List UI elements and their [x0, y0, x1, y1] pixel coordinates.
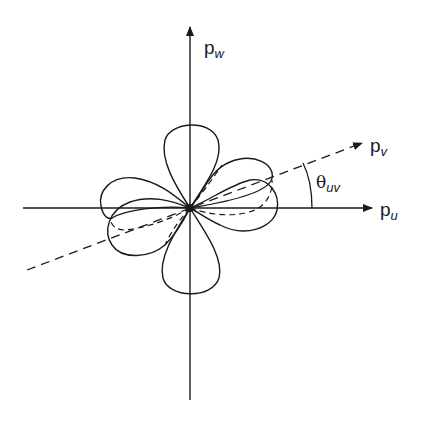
pu-label-sub: u [391, 208, 398, 223]
origin-dot [186, 204, 194, 212]
theta-uv-label: θuv [316, 172, 340, 191]
pu-label: pu [380, 200, 398, 219]
pv-label: pv [370, 136, 387, 155]
theta-symbol: θ [316, 172, 326, 192]
theta-sub: uv [326, 180, 340, 195]
pv-label-main: p [370, 135, 381, 156]
lobe-top [164, 125, 219, 208]
lobe-diagram [0, 0, 423, 426]
pw-label-sub: w [215, 46, 224, 61]
pw-label: pw [204, 38, 224, 57]
angle-arc [303, 163, 312, 208]
pu-label-main: p [380, 199, 391, 220]
lobe-upper-right [190, 158, 272, 208]
pv-label-sub: v [381, 144, 388, 159]
pw-label-main: p [204, 37, 215, 58]
